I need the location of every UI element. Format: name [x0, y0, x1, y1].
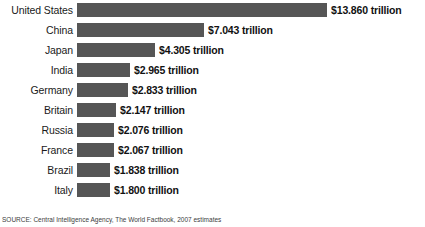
bar-area: $2.833 trillion: [77, 83, 197, 97]
bar-area: $1.838 trillion: [77, 163, 179, 177]
bar: [77, 183, 110, 197]
bar: [77, 3, 327, 17]
bar: [77, 63, 130, 77]
bar-area: $2.965 trillion: [77, 63, 199, 77]
bar-row: Russia$2.076 trillion: [0, 123, 425, 137]
bar-row: Italy$1.800 trillion: [0, 183, 425, 197]
bar-row: China$7.043 trillion: [0, 23, 425, 37]
bar: [77, 43, 155, 57]
value-label: $4.305 trillion: [159, 43, 224, 57]
bar-area: $1.800 trillion: [77, 183, 179, 197]
bar-row: Brazil$1.838 trillion: [0, 163, 425, 177]
value-label: $2.076 trillion: [118, 123, 183, 137]
bar: [77, 143, 114, 157]
bar-area: $2.076 trillion: [77, 123, 183, 137]
bar: [77, 83, 128, 97]
value-label: $2.833 trillion: [132, 83, 197, 97]
bar-row: Britain$2.147 trillion: [0, 103, 425, 117]
value-label: $1.838 trillion: [114, 163, 179, 177]
category-label: India: [0, 63, 73, 77]
value-label: $13.860 trillion: [331, 3, 402, 17]
bar-area: $2.147 trillion: [77, 103, 185, 117]
category-label: Japan: [0, 43, 73, 57]
bar-row: France$2.067 trillion: [0, 143, 425, 157]
source-note: SOURCE: Central Intelligence Agency, The…: [2, 216, 221, 224]
bar-row: United States$13.860 trillion: [0, 3, 425, 17]
bar-rows-container: United States$13.860 trillionChina$7.043…: [0, 3, 425, 203]
category-label: Italy: [0, 183, 73, 197]
value-label: $2.965 trillion: [134, 63, 199, 77]
bar-row: Germany$2.833 trillion: [0, 83, 425, 97]
bar: [77, 123, 114, 137]
bar-row: Japan$4.305 trillion: [0, 43, 425, 57]
bar-area: $4.305 trillion: [77, 43, 224, 57]
value-label: $1.800 trillion: [114, 183, 179, 197]
bar: [77, 23, 204, 37]
category-label: France: [0, 143, 73, 157]
category-label: United States: [0, 3, 73, 17]
value-label: $2.147 trillion: [120, 103, 185, 117]
value-label: $2.067 trillion: [118, 143, 183, 157]
category-label: Russia: [0, 123, 73, 137]
bar-area: $13.860 trillion: [77, 3, 402, 17]
value-label: $7.043 trillion: [208, 23, 273, 37]
gdp-bar-chart: United States$13.860 trillionChina$7.043…: [0, 0, 425, 227]
bar-row: India$2.965 trillion: [0, 63, 425, 77]
bar-area: $7.043 trillion: [77, 23, 273, 37]
category-label: Germany: [0, 83, 73, 97]
category-label: Brazil: [0, 163, 73, 177]
bar: [77, 163, 110, 177]
bar: [77, 103, 116, 117]
category-label: Britain: [0, 103, 73, 117]
bar-area: $2.067 trillion: [77, 143, 183, 157]
category-label: China: [0, 23, 73, 37]
